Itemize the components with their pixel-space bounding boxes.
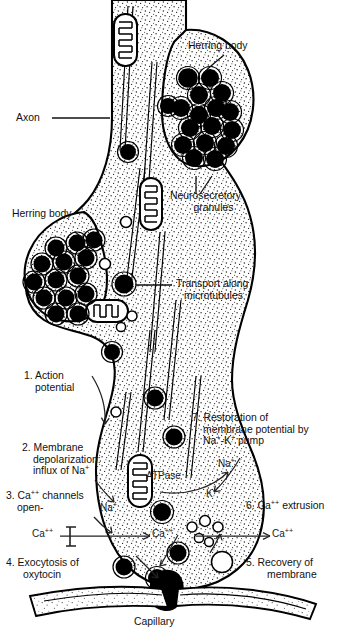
step-7-line2: membrane potential by [192, 424, 309, 436]
neurosecretory-axon-illustration [0, 0, 339, 636]
step-2-line1: 2. Membrane [22, 442, 83, 453]
label-capillary: Capillary [134, 616, 174, 628]
step-6-extrusion: extrusion [279, 500, 324, 511]
step-7-line1: 7. Restoration of [192, 412, 268, 423]
ion-k-influx: K+ [206, 488, 217, 499]
mitochondrion [114, 14, 137, 66]
mitochondrion [140, 178, 162, 230]
step-4-exocytosis: 4. Exocytosis of oxytocin [6, 557, 79, 580]
diagram-canvas: Axon Herring body Herring body Neurosecr… [0, 0, 339, 636]
label-axon: Axon [16, 112, 40, 124]
step-3-channels: channels [39, 490, 83, 501]
transport-line1: Transport along [176, 278, 248, 289]
step-1-line1: 1. Action [24, 370, 64, 381]
step-7-line3: Na+-K+ pump [192, 435, 264, 447]
step-3-line1: 3. Ca++ channels [6, 490, 84, 501]
ion-ca-right-text: Ca [272, 528, 285, 539]
ion-ca-inside-text: Ca [152, 528, 165, 539]
transport-line2: microtubules [176, 290, 243, 302]
ion-ca-left-text: Ca [32, 528, 45, 539]
granules-line2: granules [178, 202, 234, 214]
step-1-action-potential: 1. Action potential [24, 370, 74, 393]
step-4-line1: 4. Exocytosis of [6, 557, 79, 568]
label-herring-body-left: Herring body [12, 208, 72, 220]
ion-ca-inside-sup: ++ [165, 526, 173, 535]
ion-na-influx-sup: + [113, 500, 117, 509]
ion-na-efflux: Na+ [218, 458, 235, 469]
label-neurosecretory-granules: Neurosecretory granules [170, 190, 241, 213]
step-6-ca-extrusion: 6. Ca++ extrusion [246, 500, 324, 512]
granules-line1: Neurosecretory [170, 190, 241, 201]
step-3-ca-sup: ++ [31, 488, 39, 497]
step-3-ca: 3. Ca [6, 490, 31, 501]
step-7-pump: pump [235, 435, 264, 446]
ion-na-influx-text: Na [100, 502, 113, 513]
step-6-ca-sup: ++ [271, 498, 279, 507]
step-5-line2: membrane [246, 569, 317, 581]
step-4-line2: oxytocin [6, 569, 61, 581]
ion-na-efflux-text: Na [218, 458, 231, 469]
step-3-line2: open- [6, 502, 44, 514]
step-7-restoration: 7. Restoration of membrane potential by … [192, 412, 309, 447]
ion-na-influx: Na+ [100, 502, 117, 513]
ion-ca-extracellular-left: Ca++ [32, 528, 53, 539]
step-1-line2: potential [24, 382, 74, 394]
step-5-line1: 5. Recovery of [246, 557, 313, 568]
ion-ca-right-sup: ++ [285, 526, 293, 535]
step-5-recovery: 5. Recovery of membrane [246, 557, 317, 580]
ion-k-influx-sup: + [213, 486, 217, 495]
arrow-action-potential [92, 376, 105, 424]
ion-na-efflux-sup: + [231, 456, 235, 465]
ion-ca-left-sup: ++ [45, 526, 53, 535]
label-transport-microtubules: Transport along microtubules [176, 278, 248, 301]
step-3-ca-channels: 3. Ca++ channels open- [6, 490, 84, 513]
ion-ca-extracellular-right: Ca++ [272, 528, 293, 539]
label-atpase: ATPase [146, 470, 181, 481]
step-2-line3-sup: + [85, 463, 89, 472]
label-herring-body-top: Herring body [188, 40, 248, 52]
step-2-line3-text: influx of Na [33, 465, 85, 476]
step-7-na: Na [203, 435, 216, 446]
step-6-ca: 6. Ca [246, 500, 271, 511]
ion-k-influx-text: K [206, 488, 213, 499]
step-2-line3: influx of Na+ [22, 465, 89, 477]
mitochondrion [128, 455, 152, 507]
step-2-membrane-depolarization: 2. Membrane depolarization: influx of Na… [22, 442, 101, 477]
ion-ca-intracellular: Ca++ [152, 528, 173, 539]
step-7-k: -K [221, 435, 231, 446]
